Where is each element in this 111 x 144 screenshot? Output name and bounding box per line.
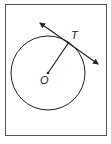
label-O: O bbox=[40, 74, 49, 86]
radius-segment-OT bbox=[48, 42, 69, 73]
label-T: T bbox=[71, 29, 79, 41]
diagram-canvas: T O bbox=[0, 0, 111, 144]
diagram-frame bbox=[6, 5, 107, 136]
tangent-line bbox=[40, 23, 98, 64]
